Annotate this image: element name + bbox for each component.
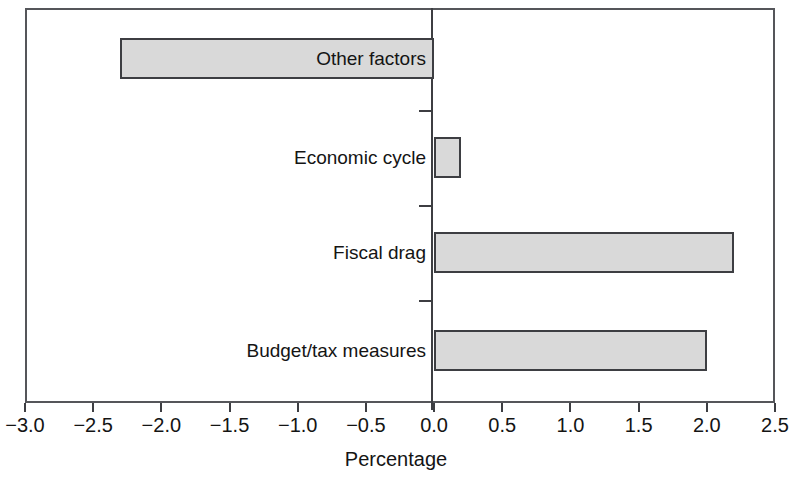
x-axis-tick-label: 1.0 (557, 414, 585, 437)
x-axis-tick-label: −2.0 (142, 414, 181, 437)
x-axis-tick-label: −3.0 (5, 414, 44, 437)
x-axis-tick (774, 403, 776, 412)
bar-fiscal-drag (434, 232, 734, 273)
x-axis-tick-label: 2.5 (761, 414, 789, 437)
x-axis-tick (365, 403, 367, 412)
category-label-economic-cycle: Economic cycle (294, 137, 426, 178)
category-label-budget-tax-measures: Budget/tax measures (246, 330, 426, 371)
x-axis-tick-label: −1.0 (278, 414, 317, 437)
x-axis-tick (501, 403, 503, 412)
x-axis-tick-label: −0.5 (346, 414, 385, 437)
x-axis-tick-label: −1.5 (210, 414, 249, 437)
x-axis-tick (569, 403, 571, 412)
x-axis-tick (433, 403, 435, 412)
x-axis-tick (229, 403, 231, 412)
x-axis-tick (92, 403, 94, 412)
category-tick (419, 300, 431, 302)
x-axis-tick-label: 0.5 (488, 414, 516, 437)
x-axis-tick (160, 403, 162, 412)
x-axis-tick (297, 403, 299, 412)
bar-chart: Other factors Economic cycle Fiscal drag… (0, 0, 792, 480)
x-axis-tick-label: 2.0 (693, 414, 721, 437)
x-axis-tick (638, 403, 640, 412)
x-axis-title: Percentage (0, 448, 792, 471)
x-axis-tick (24, 403, 26, 412)
x-axis-tick-label: 0.0 (420, 414, 448, 437)
category-label-other-factors: Other factors (316, 38, 426, 79)
bar-economic-cycle (434, 137, 461, 178)
bar-budget-tax-measures (434, 330, 707, 371)
x-axis-tick (706, 403, 708, 412)
category-tick (419, 205, 431, 207)
x-axis-tick-label: −2.5 (73, 414, 112, 437)
category-label-fiscal-drag: Fiscal drag (333, 232, 426, 273)
category-tick (419, 110, 431, 112)
x-axis-tick-label: 1.5 (625, 414, 653, 437)
